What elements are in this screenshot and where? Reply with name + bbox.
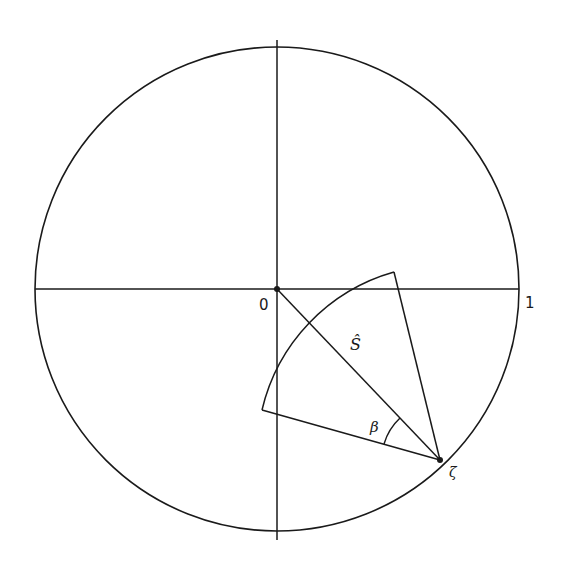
origin-label: 0 xyxy=(259,296,269,314)
beta-angle-arc xyxy=(384,418,400,444)
radius-origin-to-zeta xyxy=(277,289,440,460)
sector-edge-lower xyxy=(262,410,440,460)
origin-point xyxy=(274,286,280,292)
one-label: 1 xyxy=(525,294,535,312)
zeta-label: ζ xyxy=(449,464,458,480)
beta-label: β xyxy=(369,418,379,436)
s-hat-label: Ŝ xyxy=(350,334,361,354)
zeta-point xyxy=(437,457,443,463)
sector-edge-upper xyxy=(394,272,440,460)
sector-arc xyxy=(262,272,394,410)
diagram-canvas: 0 1 Ŝ β ζ xyxy=(0,0,568,564)
